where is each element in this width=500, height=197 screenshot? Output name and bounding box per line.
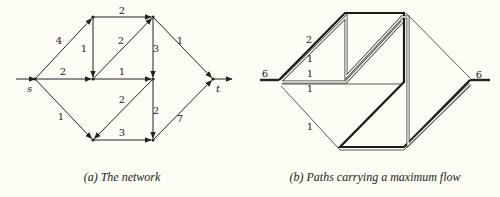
capacity-label: 7 [177,113,183,124]
network-graph: 4212121312237st [16,5,232,142]
capacity-label: 2 [118,35,124,46]
node-E [91,138,94,141]
path-1e [406,13,470,78]
capacity-label: 1 [58,111,64,122]
capacity-label: 2 [119,94,125,105]
max-flow-paths-graph: 6211116 [260,13,490,150]
flow-label: 1 [307,68,313,79]
node-A [91,15,94,18]
flow-label: 1 [307,53,313,64]
caption-network: (a) The network [84,170,161,185]
capacity-label: 3 [153,43,159,54]
flow-label: 1 [307,83,313,94]
capacity-label: 2 [60,66,66,77]
edge-F-t [153,80,212,140]
node-t [211,77,214,80]
node-F [151,138,154,141]
node-D [151,77,154,80]
capacity-label: 4 [56,35,62,46]
node-C [151,15,154,18]
flow-label: 2 [306,34,312,45]
caption-max-flow: (b) Paths carrying a maximum flow [290,170,461,185]
path-1d [281,86,470,150]
flow-label: 6 [262,68,268,79]
capacity-label: 3 [119,127,125,138]
capacity-label: 1 [119,66,125,77]
path-1b [282,22,402,82]
node-B [91,77,94,80]
capacity-label: 2 [119,5,125,16]
node-s [33,77,36,80]
capacity-label: 1 [177,35,183,46]
edge-s-E [35,79,92,139]
node-label-t: t [216,83,221,94]
edge-C-t [153,17,212,78]
capacity-label: 1 [81,43,87,54]
max-flow-diagram: 4212121312237st 6211116 [0,0,500,197]
capacity-label: 2 [153,105,159,116]
node-label-s: s [27,83,32,94]
flow-label: 6 [476,69,482,80]
flow-label: 1 [307,121,313,132]
